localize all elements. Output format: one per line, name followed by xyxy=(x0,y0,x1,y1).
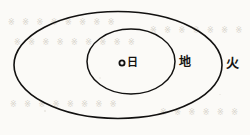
orbit-diagram-figure: ※ ※ ※ ※ ※ ※ ※ ※ ※ ※ ※ ※ ※ ※ ※ ※ ※ ※ ※ ※ … xyxy=(0,0,250,135)
sun-label: 日 xyxy=(127,57,138,68)
sun-marker-icon xyxy=(119,60,124,65)
earth-orbit-label: 地 xyxy=(179,56,191,68)
orbit-diagram-canvas xyxy=(0,0,250,135)
mars-orbit-label: 火 xyxy=(226,56,239,69)
